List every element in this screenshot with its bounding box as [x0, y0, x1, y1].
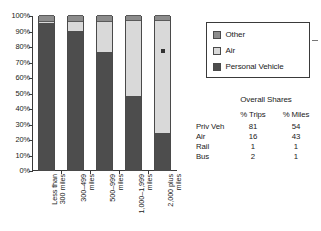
overall-shares-table: % Trips % Miles Priv Veh8154Air1643Rail1… — [196, 110, 318, 161]
axis-frame — [32, 16, 177, 171]
data-point-marker — [161, 49, 165, 53]
table-header-miles: % Miles — [274, 110, 318, 122]
bars-layer — [32, 16, 177, 171]
y-tick-label: 90% — [16, 28, 31, 35]
bar-segment-air[interactable] — [126, 20, 142, 96]
legend-label: Air — [226, 47, 235, 55]
legend-swatch-icon — [213, 47, 221, 55]
x-category-label: 300–499 miles — [80, 174, 102, 231]
table-cell-trips: 1 — [232, 142, 274, 152]
plot-area: 100%90%80%70%60%50%40%30%20%10%0% Less t… — [0, 0, 190, 231]
table-cell-miles: 43 — [274, 132, 318, 142]
bar-segment-pv[interactable] — [126, 96, 142, 170]
table-cell-miles: 54 — [274, 122, 318, 132]
bar-column[interactable] — [38, 16, 56, 171]
y-axis-tick-labels: 100%90%80%70%60%50%40%30%20%10%0% — [0, 16, 30, 171]
x-category-label: 500–999 miles — [109, 174, 131, 231]
table-row: Air1643 — [196, 132, 318, 142]
table-cell-mode: Bus — [196, 151, 232, 161]
y-tick-label: 40% — [16, 105, 31, 112]
table-cell-mode: Air — [196, 132, 232, 142]
x-category-label: Less than 300 miles — [51, 174, 73, 231]
table-header-trips: % Trips — [232, 110, 274, 122]
legend-item[interactable]: Personal Vehicle — [213, 61, 284, 73]
y-tick-label: 10% — [16, 152, 31, 159]
edge-tick-mark-icon — [312, 40, 318, 41]
legend-item[interactable]: Air — [213, 45, 235, 57]
bar-column[interactable] — [96, 16, 114, 171]
x-category-label: 1,000–1,999 miles — [138, 174, 160, 231]
table-cell-mode: Rail — [196, 142, 232, 152]
table-header-corner — [196, 110, 232, 122]
bar-column[interactable] — [125, 16, 143, 171]
overall-shares-panel: Overall Shares % Trips % Miles Priv Veh8… — [196, 96, 318, 104]
table-row: Priv Veh8154 — [196, 122, 318, 132]
y-tick-label: 30% — [16, 121, 31, 128]
table-cell-miles: 1 — [274, 142, 318, 152]
y-tick-label: 60% — [16, 74, 31, 81]
chart-legend: OtherAirPersonal Vehicle — [206, 22, 310, 78]
bar-segment-other[interactable] — [39, 15, 55, 21]
table-cell-mode: Priv Veh — [196, 122, 232, 132]
x-category-label: 2,000 plus miles — [167, 174, 189, 231]
bar-column[interactable] — [67, 16, 85, 171]
bar-segment-pv[interactable] — [97, 52, 113, 170]
bar-segment-air[interactable] — [155, 20, 171, 133]
table-cell-trips: 2 — [232, 151, 274, 161]
bar-segment-pv[interactable] — [68, 31, 84, 171]
legend-item[interactable]: Other — [213, 29, 245, 41]
legend-swatch-icon — [213, 63, 221, 71]
overall-shares-title: Overall Shares — [196, 96, 318, 104]
y-tick-label: 80% — [16, 43, 31, 50]
x-axis-category-labels: Less than 300 miles300–499 miles500–999 … — [32, 174, 177, 231]
table-cell-miles: 1 — [274, 151, 318, 161]
legend-swatch-icon — [213, 31, 221, 39]
bar-segment-air[interactable] — [39, 21, 55, 23]
bar-segment-pv[interactable] — [155, 133, 171, 170]
table-row: Rail11 — [196, 142, 318, 152]
y-tick-label: 100% — [11, 12, 30, 19]
y-tick-label: 70% — [16, 59, 31, 66]
y-tick-label: 50% — [16, 90, 31, 97]
bar-segment-air[interactable] — [68, 21, 84, 30]
y-tick-label: 20% — [16, 136, 31, 143]
table-header-row: % Trips % Miles — [196, 110, 318, 122]
y-tick-mark — [29, 171, 33, 172]
bar-segment-other[interactable] — [68, 15, 84, 21]
bar-segment-pv[interactable] — [39, 23, 55, 170]
bar-segment-other[interactable] — [126, 15, 142, 20]
table-cell-trips: 16 — [232, 132, 274, 142]
legend-label: Other — [226, 31, 246, 39]
bar-segment-other[interactable] — [155, 15, 171, 20]
table-cell-trips: 81 — [232, 122, 274, 132]
bar-segment-other[interactable] — [97, 15, 113, 21]
legend-label: Personal Vehicle — [226, 63, 284, 71]
table-row: Bus21 — [196, 151, 318, 161]
bar-segment-air[interactable] — [97, 21, 113, 52]
stacked-bar-chart: 100%90%80%70%60%50%40%30%20%10%0% Less t… — [0, 0, 321, 231]
bar-column[interactable] — [154, 16, 172, 171]
